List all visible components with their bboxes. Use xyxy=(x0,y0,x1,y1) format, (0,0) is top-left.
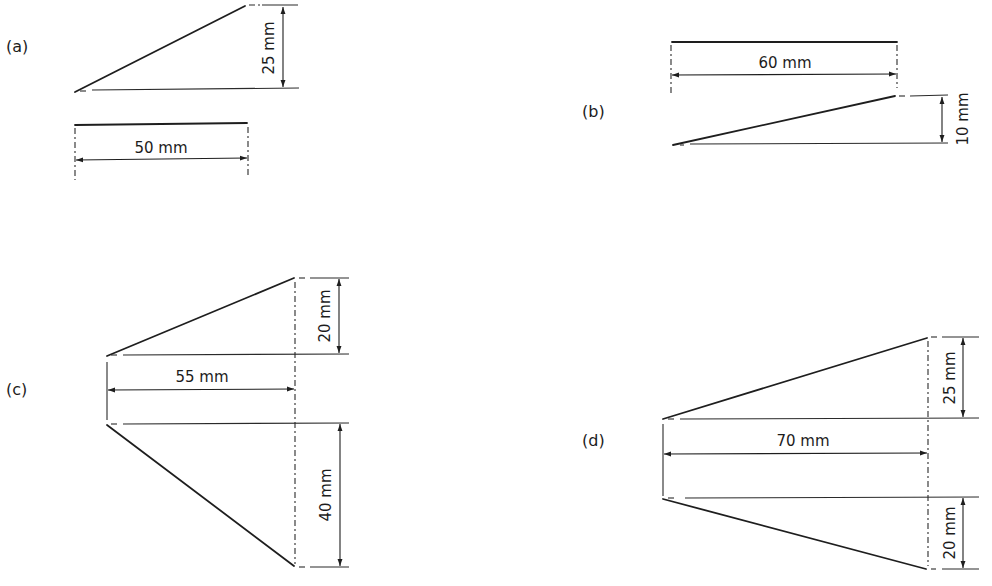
panel-c-horizontal-dimension xyxy=(108,389,294,390)
panel-a-label: (a) xyxy=(6,37,28,56)
panel-d-upper-edge xyxy=(663,338,927,419)
panel-d-lower-edge xyxy=(663,499,926,569)
panel-d-upper-ref xyxy=(680,418,979,419)
panel-b-horizontal-dim-label: 60 mm xyxy=(758,54,811,72)
panel-a-hypotenuse xyxy=(75,6,245,92)
panel-d-top-vertical-dim-label: 25 mm xyxy=(941,351,959,404)
panel-b-base xyxy=(690,143,948,144)
panel-c-upper-edge xyxy=(107,278,294,356)
panel-c-horizontal-dim-label: 55 mm xyxy=(175,368,228,386)
panel-c-bottom-vertical-dim-label: 40 mm xyxy=(317,468,335,521)
panel-d-lower-ref xyxy=(685,497,979,498)
panel-c-top-vertical-dim-label: 20 mm xyxy=(316,289,334,342)
panel-c-label: (c) xyxy=(6,380,27,399)
panel-b-hypotenuse xyxy=(673,96,895,145)
panel-b-horizontal-dimension xyxy=(672,74,896,75)
diagram-canvas: (a) 25 mm 50 mm (b) 60 mm 10 mm xyxy=(0,0,992,586)
panel-a-horizontal-dim-label: 50 mm xyxy=(134,139,187,157)
panel-d-bottom-vertical-dim-label: 20 mm xyxy=(941,506,959,559)
panel-a-bar xyxy=(75,123,247,125)
panel-d-horizontal-dim-label: 70 mm xyxy=(776,432,829,450)
panel-b: (b) 60 mm 10 mm xyxy=(582,42,972,146)
panel-b-label: (b) xyxy=(582,102,605,121)
panel-a-horizontal-dimension xyxy=(76,158,247,160)
panel-b-top-extension xyxy=(910,95,948,96)
panel-a-base xyxy=(92,88,299,90)
panel-d: (d) 25 mm 70 mm 20 mm xyxy=(582,337,979,569)
panel-c: (c) 20 mm 55 mm 40 mm xyxy=(6,278,349,567)
panel-d-horizontal-dimension xyxy=(664,453,927,454)
panel-c-upper-ref xyxy=(123,354,349,355)
panel-c-lower-ref xyxy=(123,423,349,424)
panel-a-vertical-dim-label: 25 mm xyxy=(260,21,278,74)
panel-a: (a) 25 mm 50 mm xyxy=(6,5,299,180)
panel-c-lower-edge xyxy=(107,425,294,566)
panel-b-vertical-dim-label: 10 mm xyxy=(954,92,972,145)
panel-d-label: (d) xyxy=(582,431,605,450)
